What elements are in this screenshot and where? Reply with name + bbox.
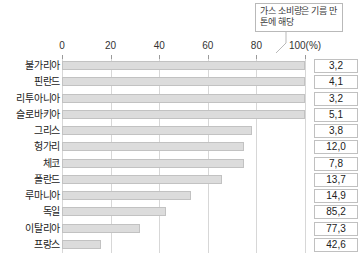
value-box-1: 3,2 xyxy=(314,59,358,73)
x-axis-tick-100: 100(%) xyxy=(289,40,321,51)
category-label-5: 그리스 xyxy=(0,123,60,139)
category-label-4: 슬로바키아 xyxy=(0,107,60,123)
value-box-4: 5,1 xyxy=(314,108,358,122)
bar-4 xyxy=(62,110,305,119)
gridline xyxy=(305,58,306,253)
value-box-5: 3,8 xyxy=(314,124,358,138)
value-box-10: 85,2 xyxy=(314,205,358,219)
bar-row xyxy=(62,139,305,155)
bar-row xyxy=(62,204,305,220)
x-axis-tick-60: 60 xyxy=(202,40,213,51)
category-label-12: 프랑스 xyxy=(0,237,60,253)
bar-7 xyxy=(62,159,244,168)
bar-12 xyxy=(62,240,101,249)
category-label-9: 루마니아 xyxy=(0,188,60,204)
bar-row xyxy=(62,58,305,74)
bar-6 xyxy=(62,142,244,151)
bar-8 xyxy=(62,175,222,184)
x-axis-tick-40: 40 xyxy=(154,40,165,51)
x-axis-tick-mark xyxy=(62,55,63,59)
value-box-11: 77,3 xyxy=(314,222,358,236)
bar-row xyxy=(62,188,305,204)
x-axis-tick-mark xyxy=(305,55,306,59)
value-box-12: 42,6 xyxy=(314,238,358,252)
chart-screenshot: 가스 소비량은 기름 만 톤에 해당 020406080100(%) 불가리아핀… xyxy=(0,0,360,253)
category-label-column: 불가리아핀란드리투아니아슬로바키아그리스헝가리체코폴란드루마니아독일이탈리아프랑… xyxy=(0,58,60,253)
category-label-1: 불가리아 xyxy=(0,58,60,74)
value-box-3: 3,2 xyxy=(314,92,358,106)
x-axis-tick-80: 80 xyxy=(251,40,262,51)
category-label-3: 리투아니아 xyxy=(0,91,60,107)
value-box-7: 7,8 xyxy=(314,157,358,171)
x-axis-tick-mark xyxy=(111,55,112,59)
x-axis-tick-labels: 020406080100(%) xyxy=(0,40,360,54)
bar-1 xyxy=(62,61,305,70)
x-axis-tick-mark xyxy=(159,55,160,59)
bar-5 xyxy=(62,126,252,135)
category-label-2: 핀란드 xyxy=(0,74,60,90)
value-box-8: 13,7 xyxy=(314,173,358,187)
bar-10 xyxy=(62,207,166,216)
gas-consumption-note-callout: 가스 소비량은 기름 만 톤에 해당 xyxy=(255,3,343,32)
x-axis-tick-20: 20 xyxy=(105,40,116,51)
plot-area xyxy=(62,58,305,253)
value-box-6: 12,0 xyxy=(314,140,358,154)
category-label-11: 이탈리아 xyxy=(0,221,60,237)
gas-consumption-note-text: 가스 소비량은 기름 만 톤에 해당 xyxy=(260,6,337,27)
bar-2 xyxy=(62,77,305,86)
category-label-6: 헝가리 xyxy=(0,139,60,155)
bar-row xyxy=(62,74,305,90)
value-box-9: 14,9 xyxy=(314,189,358,203)
category-label-8: 폴란드 xyxy=(0,172,60,188)
bar-row xyxy=(62,123,305,139)
bar-3 xyxy=(62,94,305,103)
category-label-7: 체코 xyxy=(0,156,60,172)
category-label-10: 독일 xyxy=(0,204,60,220)
bar-row xyxy=(62,221,305,237)
bar-9 xyxy=(62,191,191,200)
value-column: 3,24,13,25,13,812,07,813,714,985,277,342… xyxy=(314,58,358,253)
x-axis-tick-0: 0 xyxy=(59,40,65,51)
bar-row xyxy=(62,237,305,253)
bar-row xyxy=(62,107,305,123)
bar-row xyxy=(62,91,305,107)
bar-row xyxy=(62,172,305,188)
x-axis-tick-mark xyxy=(256,55,257,59)
value-box-2: 4,1 xyxy=(314,75,358,89)
bar-11 xyxy=(62,224,140,233)
x-axis-tick-mark xyxy=(208,55,209,59)
bar-row xyxy=(62,156,305,172)
